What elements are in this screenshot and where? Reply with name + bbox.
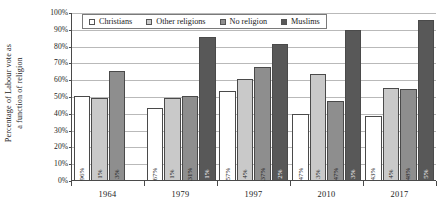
bar-group: 57%4%37%2% — [218, 13, 291, 180]
y-axis-tick-label: 70% — [28, 58, 68, 67]
x-axis-category-label: 1997 — [217, 181, 290, 209]
bar[interactable]: 3% — [109, 71, 126, 180]
bar[interactable]: 67% — [147, 108, 164, 180]
x-axis-category-label: 2010 — [290, 181, 363, 209]
bar[interactable]: 48% — [400, 89, 417, 180]
legend-label: Muslims — [291, 17, 320, 26]
bar[interactable]: 3% — [345, 30, 362, 180]
bar[interactable]: 47% — [292, 114, 309, 180]
bar[interactable]: 2% — [272, 44, 289, 180]
legend: ChristiansOther religionsNo religionMusl… — [82, 14, 327, 29]
legend-label: Christians — [99, 17, 132, 26]
bar[interactable]: 31% — [182, 96, 199, 180]
y-axis-tick-label: 100% — [28, 8, 68, 17]
bar-value-label: 3% — [113, 169, 121, 178]
legend-swatch-icon — [89, 19, 95, 25]
bar-value-label: 2% — [276, 169, 284, 178]
bar-value-label: 43% — [369, 168, 377, 181]
bar-group: 43%4%48%5% — [363, 13, 436, 180]
y-axis-tick-label: 40% — [28, 109, 68, 118]
bar[interactable]: 4% — [237, 79, 254, 180]
bar-value-label: 67% — [151, 168, 159, 181]
bar-value-label: 3% — [314, 169, 322, 178]
bar-groups: 96%1%3%67%1%31%1%57%4%37%2%47%3%47%3%43%… — [72, 13, 436, 180]
bar[interactable]: 43% — [365, 116, 382, 180]
bar-value-label: 37% — [259, 168, 267, 181]
legend-swatch-icon — [146, 19, 152, 25]
legend-item[interactable]: Christians — [89, 17, 132, 26]
y-axis-tick-label: 10% — [28, 159, 68, 168]
bar-value-label: 57% — [224, 168, 232, 181]
legend-label: No religion — [230, 17, 268, 26]
bar[interactable]: 1% — [164, 98, 181, 180]
bar-value-label: 5% — [422, 169, 430, 178]
bar-value-label: 1% — [168, 169, 176, 178]
bar-value-label: 31% — [186, 168, 194, 181]
y-axis-tick-label: 30% — [28, 126, 68, 135]
y-axis-tick-label: 80% — [28, 42, 68, 51]
bar[interactable]: 96% — [74, 96, 91, 180]
bar-group: 47%3%47%3% — [290, 13, 363, 180]
x-axis-category-label: 1964 — [71, 181, 144, 209]
bar-value-label: 96% — [78, 168, 86, 181]
bar-value-label: 4% — [241, 169, 249, 178]
bar-value-label: 1% — [203, 169, 211, 178]
x-axis-category-label: 1979 — [144, 181, 217, 209]
y-axis-title-line-1: Percentage of Labour vote as — [3, 44, 14, 142]
y-axis-tick-label: 90% — [28, 25, 68, 34]
y-axis-tick-label: 20% — [28, 142, 68, 151]
x-axis-category-label: 2017 — [363, 181, 436, 209]
y-axis-title: Percentage of Labour vote as a function … — [0, 5, 28, 181]
bar[interactable]: 57% — [219, 91, 236, 180]
x-axis-labels: 19641979199720102017 — [71, 181, 436, 209]
bar-value-label: 47% — [297, 168, 305, 181]
legend-item[interactable]: Muslims — [281, 17, 320, 26]
y-axis-tick-label: 60% — [28, 75, 68, 84]
x-axis-tick-mark — [436, 181, 437, 186]
bar[interactable]: 3% — [310, 74, 327, 180]
y-axis-tick-label: 50% — [28, 92, 68, 101]
bar[interactable]: 1% — [91, 98, 108, 180]
y-axis-tick-label: 0% — [28, 176, 68, 185]
y-axis-title-line-2: a function of religion — [14, 44, 25, 142]
legend-swatch-icon — [220, 19, 226, 25]
bar-value-label: 4% — [387, 169, 395, 178]
bar[interactable]: 4% — [383, 88, 400, 180]
legend-item[interactable]: Other religions — [146, 17, 205, 26]
bar-chart: Percentage of Labour vote as a function … — [0, 0, 447, 209]
legend-label: Other religions — [156, 17, 205, 26]
bar-value-label: 1% — [96, 169, 104, 178]
bar-value-label: 47% — [332, 168, 340, 181]
bar[interactable]: 5% — [418, 20, 435, 180]
bar-value-label: 3% — [349, 169, 357, 178]
bar[interactable]: 47% — [327, 101, 344, 180]
bar[interactable]: 37% — [254, 67, 271, 180]
legend-item[interactable]: No religion — [220, 17, 268, 26]
bar-group: 67%1%31%1% — [145, 13, 218, 180]
bar-value-label: 48% — [404, 168, 412, 181]
legend-swatch-icon — [281, 19, 287, 25]
bar-group: 96%1%3% — [72, 13, 145, 180]
plot-area: 0%10%20%30%40%50%60%70%80%90%100% 96%1%3… — [71, 13, 436, 181]
bar[interactable]: 1% — [199, 37, 216, 180]
